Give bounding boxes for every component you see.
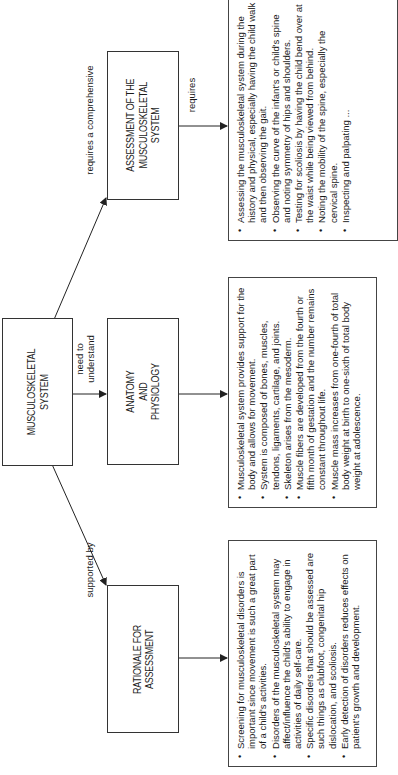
node-assessment: ASSESSMENT OF THE MUSCULOSKELETAL SYSTEM bbox=[107, 51, 179, 200]
edge-label-requires-comprehensive: requires a comprehensive bbox=[84, 55, 95, 185]
node-label: ANATOMY AND PHYSIOLOGY bbox=[124, 363, 162, 420]
node-anatomy-physiology: ANATOMY AND PHYSIOLOGY bbox=[107, 318, 179, 465]
node-label: RATIONALE FOR ASSESSMENT bbox=[131, 624, 156, 693]
bullet-icon: • bbox=[270, 755, 281, 758]
list-item: •Skeleton arises from the mesoderm. bbox=[282, 284, 293, 499]
list-item: •System is composed of bones, muscles, t… bbox=[258, 284, 280, 499]
list-item: •Screening for musculoskeletal disorders… bbox=[235, 547, 269, 758]
bullet-icon: • bbox=[304, 755, 315, 758]
bullet-icon: • bbox=[339, 755, 350, 758]
edge-label-supported-by: supported by bbox=[84, 530, 95, 610]
bullet-icon: • bbox=[316, 229, 327, 232]
list-assessment: •Assessing the musculoskeletal system du… bbox=[228, 0, 398, 241]
list-item: •Muscle mass increases from one-fourth o… bbox=[329, 284, 363, 499]
list-item: •Noting the mobility of the spine, espec… bbox=[316, 0, 338, 232]
list-item: •Disorders of the musculoskeletal system… bbox=[270, 547, 304, 758]
list-item: •Early detection of disorders reduces ef… bbox=[339, 547, 361, 758]
bullet-icon: • bbox=[235, 496, 246, 499]
edge-label-need-to-understand: need to understand bbox=[74, 329, 96, 389]
list-item: •Inspecting and palpating ... bbox=[340, 0, 351, 232]
bullet-icon: • bbox=[293, 229, 304, 232]
bullet-icon: • bbox=[235, 755, 246, 758]
list-item: •Testing for scoliosis by having the chi… bbox=[293, 0, 315, 232]
list-rationale: •Screening for musculoskeletal disorders… bbox=[228, 540, 377, 767]
bullet-icon: • bbox=[340, 229, 351, 232]
node-rationale: RATIONALE FOR ASSESSMENT bbox=[107, 585, 179, 733]
bullet-icon: • bbox=[294, 496, 305, 499]
list-item: •Specific disorders that should be asses… bbox=[304, 547, 338, 758]
bullet-icon: • bbox=[282, 496, 293, 499]
list-item: •Musculoskeletal system provides support… bbox=[235, 284, 257, 499]
bullet-icon: • bbox=[258, 496, 269, 499]
list-item: •Assessing the musculoskeletal system du… bbox=[235, 0, 269, 232]
bullet-icon: • bbox=[329, 496, 340, 499]
node-musculoskeletal-system: MUSCULOSKELETAL SYSTEM bbox=[2, 318, 73, 466]
bullet-icon: • bbox=[270, 229, 281, 232]
list-anatomy: •Musculoskeletal system provides support… bbox=[228, 277, 377, 508]
list-item: •Observing the curve of the infant's or … bbox=[270, 0, 292, 232]
node-label: ASSESSMENT OF THE MUSCULOSKELETAL SYSTEM bbox=[124, 79, 162, 172]
edge-label-requires: requires bbox=[186, 70, 197, 120]
list-item: •Muscle fibers are developed from the fo… bbox=[294, 284, 328, 499]
bullet-icon: • bbox=[235, 229, 246, 232]
node-label: MUSCULOSKELETAL SYSTEM bbox=[25, 349, 50, 436]
